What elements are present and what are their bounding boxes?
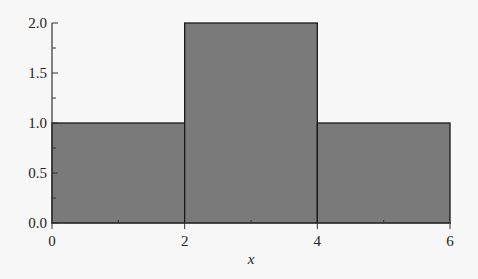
y-tick-label: 1.0 [28, 115, 47, 131]
x-axis: 0246 [48, 220, 454, 249]
x-tick-label: 2 [181, 233, 189, 249]
histogram-chart: 0.00.51.01.52.0 0246 x [0, 0, 478, 279]
histogram-bar [52, 123, 185, 223]
y-tick-label: 2.0 [28, 15, 47, 31]
x-tick-label: 0 [48, 233, 56, 249]
x-tick-label: 6 [446, 233, 454, 249]
histogram-bar [317, 123, 450, 223]
bars-group [52, 23, 450, 223]
x-tick-label: 4 [314, 233, 322, 249]
y-tick-label: 0.5 [28, 165, 47, 181]
y-tick-label: 0.0 [28, 215, 47, 231]
y-tick-label: 1.5 [28, 65, 47, 81]
histogram-bar [185, 23, 318, 223]
x-axis-title: x [247, 251, 255, 267]
